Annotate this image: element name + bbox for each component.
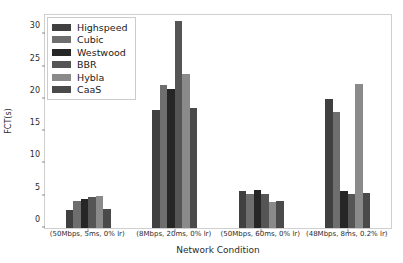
legend-swatch-icon — [52, 86, 71, 93]
bar-hybla — [269, 202, 276, 228]
bar-group — [305, 15, 392, 228]
legend-item-label: CaaS — [77, 85, 101, 95]
bar-bbr — [175, 21, 182, 228]
x-axis-tick-label: (8Mbps, 20ms, 0% lr) — [136, 231, 211, 238]
bar-bbr — [88, 197, 95, 228]
legend-item-westwood[interactable]: Westwood — [52, 46, 128, 59]
bar-westwood — [340, 191, 347, 228]
y-axis-tick-label: 20 — [30, 87, 45, 95]
bar-cubic — [246, 194, 253, 228]
legend-item-label: BBR — [77, 60, 97, 70]
y-axis-tick-label: 10 — [30, 151, 45, 159]
bar-caas — [190, 108, 197, 228]
bar-bbr — [261, 194, 268, 228]
bar-bbr — [348, 194, 355, 228]
y-axis-tick-label: 25 — [30, 55, 45, 63]
y-axis-tick-label: 30 — [30, 22, 45, 30]
legend-swatch-icon — [52, 49, 71, 56]
bar-hybla — [96, 196, 103, 228]
bar-westwood — [81, 199, 88, 228]
bar-highspeed — [66, 210, 73, 228]
legend-item-hybla[interactable]: Hybla — [52, 71, 128, 84]
legend: HighspeedCubicWestwoodBBRHyblaCaaS — [47, 17, 136, 100]
x-axis-tick-label: (50Mbps, 5ms, 0% lr) — [50, 231, 125, 238]
bar-cubic — [160, 85, 167, 228]
figure-canvas: FCT(s) 051015202530 Network Condition Hi… — [0, 0, 403, 263]
bar-highspeed — [239, 191, 246, 228]
bar-westwood — [254, 190, 261, 228]
bar-caas — [103, 209, 110, 228]
bar-hybla — [182, 74, 189, 228]
bar-hybla — [355, 84, 362, 228]
y-axis-tick-label: 5 — [35, 184, 45, 192]
y-axis-label: FCT(s) — [4, 108, 13, 133]
bar-highspeed — [152, 110, 159, 228]
x-axis-tick-label: (50Mbps, 60ms, 0% lr) — [221, 231, 300, 238]
legend-item-label: Cubic — [77, 35, 104, 45]
x-axis-label: Network Condition — [44, 245, 392, 255]
bar-cubic — [333, 112, 340, 228]
y-axis-tick-label: 0 — [35, 216, 45, 224]
bar-caas — [276, 201, 283, 228]
legend-item-cubic[interactable]: Cubic — [52, 34, 128, 47]
legend-item-highspeed[interactable]: Highspeed — [52, 21, 128, 34]
bar-caas — [363, 193, 370, 228]
bar-cubic — [73, 201, 80, 228]
bar-highspeed — [325, 99, 332, 228]
legend-item-label: Hybla — [77, 73, 104, 83]
legend-item-label: Westwood — [77, 48, 126, 58]
legend-item-caas[interactable]: CaaS — [52, 84, 128, 97]
bar-group — [132, 15, 219, 228]
legend-item-label: Highspeed — [77, 23, 128, 33]
legend-swatch-icon — [52, 36, 71, 43]
x-axis-tick-label: (48Mbps, 8ms, 0.2% lr) — [306, 231, 388, 238]
bar-group — [218, 15, 305, 228]
bar-westwood — [167, 89, 174, 228]
legend-swatch-icon — [52, 24, 71, 31]
legend-swatch-icon — [52, 74, 71, 81]
legend-swatch-icon — [52, 61, 71, 68]
legend-item-bbr[interactable]: BBR — [52, 59, 128, 72]
y-axis-tick-label: 15 — [30, 119, 45, 127]
